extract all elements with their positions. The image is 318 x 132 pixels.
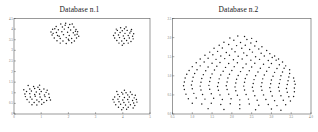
x-axis-tick-label: 2.0 xyxy=(230,115,234,119)
data-point-top-left-cluster xyxy=(60,38,61,39)
data-point-bottom-right-cluster xyxy=(130,91,131,92)
data-point-bottom-right-cluster xyxy=(133,102,134,103)
data-point-top-left-cluster xyxy=(71,42,72,43)
data-point xyxy=(261,46,262,47)
data-point xyxy=(294,80,295,81)
data-point-top-left-cluster xyxy=(71,23,72,24)
data-point-top-right-cluster xyxy=(118,34,119,35)
data-point xyxy=(253,83,254,84)
data-point xyxy=(272,57,273,58)
data-point xyxy=(237,56,238,57)
x-axis-tick-label: 3.0 xyxy=(269,115,273,119)
data-point xyxy=(260,53,261,54)
data-point-top-left-cluster xyxy=(62,26,63,27)
data-point xyxy=(234,51,235,52)
data-point xyxy=(264,74,265,75)
data-point-bottom-left-cluster xyxy=(27,85,28,86)
data-point xyxy=(207,66,208,67)
data-point-bottom-right-cluster xyxy=(134,105,135,106)
data-point-top-right-cluster xyxy=(133,33,134,34)
data-point-top-right-cluster xyxy=(123,43,124,44)
data-point-top-left-cluster xyxy=(51,34,52,35)
data-point-bottom-right-cluster xyxy=(125,104,126,105)
data-point xyxy=(233,40,234,41)
data-point-bottom-right-cluster xyxy=(126,109,127,110)
data-point xyxy=(279,90,280,91)
data-point xyxy=(255,75,256,76)
data-point-bottom-left-cluster xyxy=(45,92,46,93)
data-point xyxy=(236,45,237,46)
data-point-bottom-left-cluster xyxy=(41,104,42,105)
data-point-bottom-right-cluster xyxy=(136,99,137,100)
data-point xyxy=(225,67,226,68)
data-point-top-right-cluster xyxy=(119,32,120,33)
data-point xyxy=(280,95,281,96)
data-point-top-left-cluster xyxy=(69,35,70,36)
data-point-bottom-left-cluster xyxy=(39,93,40,94)
data-point xyxy=(254,95,255,96)
data-point xyxy=(218,45,219,46)
data-point-top-right-cluster xyxy=(113,35,114,36)
y-axis-tick-label: 1.0 xyxy=(167,74,171,78)
data-point xyxy=(226,89,227,90)
data-point-bottom-right-cluster xyxy=(113,101,114,102)
data-point-bottom-right-cluster xyxy=(128,106,129,107)
data-point xyxy=(224,58,225,59)
y-axis-tick-label: 2.0 xyxy=(167,36,171,40)
data-point xyxy=(294,87,295,88)
x-axis-tick-label: 0.5 xyxy=(171,115,175,119)
data-point-top-left-cluster xyxy=(71,38,72,39)
data-point xyxy=(211,103,212,104)
data-point-bottom-left-cluster xyxy=(46,90,47,91)
data-point xyxy=(262,78,263,79)
data-point xyxy=(194,73,195,74)
data-point xyxy=(210,77,211,78)
x-axis-tick-label: 0 xyxy=(13,115,15,119)
data-point xyxy=(252,87,253,88)
data-point-bottom-left-cluster xyxy=(49,97,50,98)
y-axis-tick-label: 2 xyxy=(11,70,13,74)
data-point-top-left-cluster xyxy=(64,28,65,29)
data-point xyxy=(218,78,219,79)
data-point-top-right-cluster xyxy=(121,40,122,41)
data-point xyxy=(204,54,205,55)
data-point xyxy=(199,65,200,66)
data-point-bottom-right-cluster xyxy=(132,100,133,101)
data-point-bottom-right-cluster xyxy=(136,101,137,102)
data-point xyxy=(294,83,295,84)
data-point-top-left-cluster xyxy=(73,32,74,33)
data-point xyxy=(220,55,221,56)
data-point-top-left-cluster xyxy=(73,26,74,27)
data-point-bottom-left-cluster xyxy=(24,93,25,94)
data-point-bottom-left-cluster xyxy=(44,94,45,95)
data-point xyxy=(199,85,200,86)
data-point xyxy=(274,100,275,101)
data-point xyxy=(196,62,197,63)
data-point xyxy=(200,82,201,83)
data-point xyxy=(285,65,286,66)
data-point-top-left-cluster xyxy=(76,37,77,38)
data-point-top-right-cluster xyxy=(114,37,115,38)
data-point-top-left-cluster xyxy=(55,26,56,27)
data-point-bottom-left-cluster xyxy=(36,104,37,105)
data-point-bottom-left-cluster xyxy=(38,101,39,102)
data-point xyxy=(243,85,244,86)
data-point-top-right-cluster xyxy=(129,37,130,38)
data-point-top-left-cluster xyxy=(75,31,76,32)
data-point-bottom-left-cluster xyxy=(43,88,44,89)
data-point-top-left-cluster xyxy=(60,23,61,24)
data-point xyxy=(235,82,236,83)
data-point-bottom-right-cluster xyxy=(116,91,117,92)
data-point xyxy=(207,58,208,59)
data-point xyxy=(239,108,240,109)
data-point xyxy=(183,85,184,86)
data-point-top-left-cluster xyxy=(69,24,70,25)
data-point-bottom-left-cluster xyxy=(36,99,37,100)
data-point xyxy=(236,79,237,80)
data-point-bottom-right-cluster xyxy=(125,92,126,93)
data-point-top-left-cluster xyxy=(78,36,79,37)
data-point-top-right-cluster xyxy=(125,26,126,27)
data-point-bottom-right-cluster xyxy=(124,97,125,98)
x-axis-tick-label: 2 xyxy=(68,115,70,119)
data-point xyxy=(184,81,185,82)
